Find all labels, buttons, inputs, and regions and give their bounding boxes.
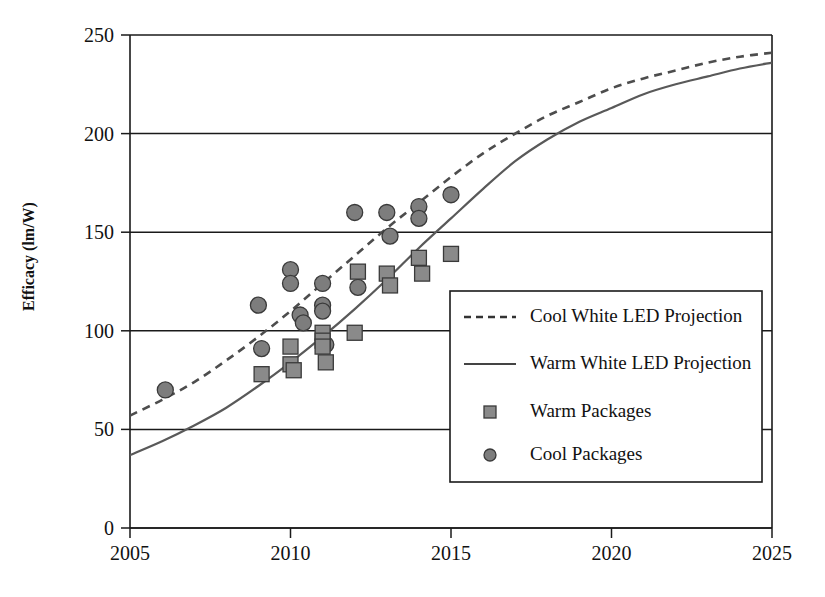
legend-circle-marker bbox=[484, 449, 496, 461]
warm-package-point bbox=[286, 363, 301, 378]
warm-package-point bbox=[383, 278, 398, 293]
cool-package-point bbox=[347, 204, 363, 220]
y-tick-labels: 050100150200250 bbox=[84, 24, 114, 539]
warm-package-point bbox=[254, 367, 269, 382]
x-tick-marks bbox=[130, 528, 772, 538]
y-axis-title: Efficacy (lm/W) bbox=[20, 202, 38, 311]
cool-package-point bbox=[443, 187, 459, 203]
y-axis-title-text: Efficacy (lm/W) bbox=[20, 202, 38, 311]
y-tick-marks bbox=[121, 35, 130, 528]
y-tick-label: 0 bbox=[104, 517, 114, 539]
x-tick-label: 2005 bbox=[110, 542, 150, 564]
warm-package-point bbox=[318, 355, 333, 370]
legend-item-label: Cool White LED Projection bbox=[530, 305, 743, 326]
x-tick-label: 2020 bbox=[592, 542, 632, 564]
cool-package-point bbox=[157, 382, 173, 398]
cool-package-point bbox=[283, 275, 299, 291]
cool-package-point bbox=[295, 315, 311, 331]
legend-square-marker bbox=[484, 406, 496, 418]
cool-package-point bbox=[382, 228, 398, 244]
y-tick-label: 50 bbox=[94, 418, 114, 440]
cool-package-point bbox=[379, 204, 395, 220]
y-tick-label: 250 bbox=[84, 24, 114, 46]
y-tick-label: 100 bbox=[84, 320, 114, 342]
x-tick-labels: 20052010201520202025 bbox=[110, 542, 792, 564]
warm-package-point bbox=[411, 250, 426, 265]
cool-package-point bbox=[315, 303, 331, 319]
y-tick-label: 150 bbox=[84, 221, 114, 243]
cool-package-point bbox=[315, 275, 331, 291]
warm-package-point bbox=[347, 325, 362, 340]
cool-package-point bbox=[250, 297, 266, 313]
warm-package-point bbox=[444, 246, 459, 261]
efficacy-scatter-chart: 050100150200250 20052010201520202025 Eff… bbox=[0, 0, 825, 597]
x-tick-label: 2015 bbox=[431, 542, 471, 564]
warm-package-point bbox=[283, 339, 298, 354]
cool-package-point bbox=[350, 279, 366, 295]
legend-item-label: Cool Packages bbox=[530, 443, 642, 464]
chart-container: 050100150200250 20052010201520202025 Eff… bbox=[0, 0, 825, 597]
warm-package-point bbox=[415, 266, 430, 281]
y-tick-label: 200 bbox=[84, 123, 114, 145]
warm-package-point bbox=[350, 264, 365, 279]
cool-package-point bbox=[411, 210, 427, 226]
legend-item-label: Warm Packages bbox=[530, 400, 651, 421]
legend-item-label: Warm White LED Projection bbox=[530, 352, 752, 373]
series-markers bbox=[157, 187, 459, 398]
x-tick-label: 2010 bbox=[271, 542, 311, 564]
legend[interactable]: Cool White LED ProjectionWarm White LED … bbox=[450, 291, 762, 482]
warm-package-point bbox=[315, 339, 330, 354]
x-tick-label: 2025 bbox=[752, 542, 792, 564]
cool-package-point bbox=[254, 341, 270, 357]
